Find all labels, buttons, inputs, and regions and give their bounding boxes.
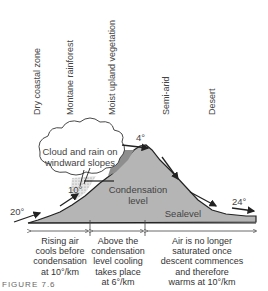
desc-line: Air is no longer	[156, 236, 248, 246]
desc-line: condensation	[28, 256, 92, 266]
condensation-label-line2: level	[128, 195, 148, 206]
cloud-label-line1: Cloud and rain on	[43, 146, 118, 157]
zone-label-semi-arid: Semi-arid	[161, 76, 171, 115]
desc-line: warms at 10°/km	[156, 277, 248, 287]
condensation-label-line1: Condensation	[109, 184, 168, 195]
zone-label-dry-coastal: Dry coastal zone	[32, 48, 42, 115]
temp-start: 20°	[10, 206, 25, 217]
zone-label-montane-rainforest: Montane rainforest	[65, 39, 75, 115]
desc-line: cools before	[28, 246, 92, 256]
description-above-condensation: Above the condensation level cooling tak…	[90, 236, 146, 287]
airflow-arrow-exit	[232, 208, 254, 211]
desc-line: Above the	[90, 236, 146, 246]
desc-line: and therefore	[156, 267, 248, 277]
desc-line: level cooling	[90, 256, 146, 266]
sealevel-label: Sealevel	[165, 208, 201, 219]
desc-line: descent commences	[156, 256, 248, 266]
desc-line: at 10°/km	[28, 267, 92, 277]
temp-condensation: 10°	[68, 184, 83, 195]
desc-line: condensation	[90, 246, 146, 256]
zone-label-desert: Desert	[207, 88, 217, 115]
description-descent: Air is no longer saturated once descent …	[156, 236, 248, 287]
description-rising: Rising air cools before condensation at …	[28, 236, 92, 277]
temp-summit: 4°	[136, 132, 145, 143]
desc-line: takes place	[90, 267, 146, 277]
temp-end: 24°	[232, 196, 247, 207]
figure-caption: FIGURE 7.6	[2, 280, 56, 289]
desc-line: Rising air	[28, 236, 92, 246]
desc-line: at 6°/km	[90, 277, 146, 287]
desc-line: saturated once	[156, 246, 248, 256]
zone-labels: Dry coastal zone Montane rainforest Mois…	[32, 20, 217, 115]
cloud-label-line2: windward slopes	[44, 157, 115, 168]
zone-label-moist-upland: Moist upland vegetation	[107, 20, 117, 115]
